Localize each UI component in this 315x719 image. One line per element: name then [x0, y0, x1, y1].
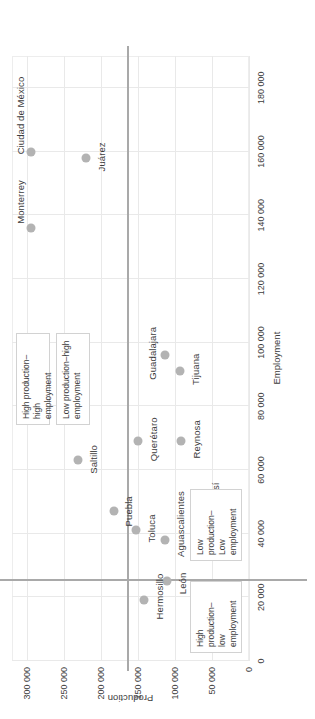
gridline-vertical	[12, 214, 249, 215]
data-point	[161, 351, 170, 360]
data-point	[73, 456, 82, 465]
y-tick-label: 0	[244, 667, 254, 713]
annotation-low-prod-high-emp: Low production–high employment	[56, 333, 90, 425]
annotation-high-prod-high-emp: High production–high employment	[16, 333, 50, 425]
data-point-label: Hermosillo	[154, 574, 165, 620]
rotated-chart-stage: Ciudad de MéxicoMonterreyJuárezSaltilloP…	[0, 0, 315, 719]
x-tick-label: 100 000	[256, 326, 266, 359]
gridline-vertical	[12, 87, 249, 88]
gridline-horizontal	[175, 56, 176, 661]
gridline-horizontal	[249, 56, 250, 661]
data-point-label: Reynosa	[191, 420, 202, 458]
y-tick-label: 100 000	[170, 667, 180, 713]
data-point-label: Querétaro	[148, 417, 159, 461]
x-tick-label: 0	[256, 658, 266, 663]
x-axis-title: Employment	[271, 332, 282, 385]
quadrant-divider-horizontal	[127, 46, 129, 671]
x-tick-label: 40 000	[256, 520, 266, 548]
data-point-label: Tijuana	[190, 353, 201, 385]
gridline-vertical	[12, 660, 249, 661]
y-tick-label: 50 000	[207, 667, 217, 713]
data-point-label: Aguascalientes	[175, 491, 186, 557]
scatter-chart-figure: Ciudad de MéxicoMonterreyJuárezSaltilloP…	[0, 0, 315, 719]
data-point	[26, 223, 35, 232]
gridline-vertical	[12, 469, 249, 470]
plot-area: Ciudad de MéxicoMonterreyJuárezSaltilloP…	[12, 56, 249, 661]
y-tick-label: 150 000	[133, 667, 143, 713]
data-point	[176, 437, 185, 446]
annotation-high-prod-low-emp: High production– low employment	[190, 581, 242, 653]
data-point	[161, 536, 170, 545]
data-point-label: Juárez	[96, 142, 107, 171]
data-point-label: Guadalajara	[147, 327, 158, 380]
gridline-horizontal	[212, 56, 213, 661]
x-tick-label: 120 000	[256, 263, 266, 296]
data-point	[110, 507, 119, 516]
gridline-horizontal	[138, 56, 139, 661]
gridline-vertical	[12, 278, 249, 279]
data-point-label: León	[177, 573, 188, 595]
data-point-label: Saltillo	[88, 445, 99, 474]
data-point-label: Toluca	[146, 514, 157, 542]
data-point	[26, 147, 35, 156]
data-point-label: Puebla	[123, 496, 134, 526]
data-point	[132, 526, 141, 535]
x-tick-label: 60 000	[256, 456, 266, 484]
gridline-vertical	[12, 151, 249, 152]
data-point-label: Ciudad de México	[15, 77, 26, 155]
data-point	[82, 153, 91, 162]
annotation-low-prod-low-emp: Low production– Low employment	[190, 489, 242, 561]
data-point-label: Monterrey	[15, 180, 26, 224]
data-point	[176, 367, 185, 376]
x-tick-label: 20 000	[256, 584, 266, 612]
data-point	[139, 596, 148, 605]
y-tick-label: 200 000	[96, 667, 106, 713]
x-tick-label: 140 000	[256, 199, 266, 232]
y-tick-label: 300 000	[22, 667, 32, 713]
y-axis-title: Production	[97, 693, 163, 704]
x-tick-label: 160 000	[256, 135, 266, 168]
x-tick-label: 80 000	[256, 393, 266, 421]
y-tick-label: 250 000	[59, 667, 69, 713]
x-tick-label: 180 000	[256, 72, 266, 105]
data-point	[133, 437, 142, 446]
